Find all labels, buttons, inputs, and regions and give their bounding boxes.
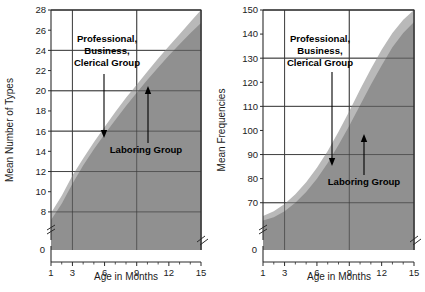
left-chart-svg: 810121416182022242628 13691215 Age in Mo… bbox=[0, 0, 212, 292]
right-professional-line-1: Professional, bbox=[290, 33, 351, 44]
left-y-zero-label: 0 bbox=[40, 244, 45, 255]
r-xtick-5: 15 bbox=[409, 267, 420, 278]
l-ytick-2: 12 bbox=[35, 166, 46, 177]
r-ytick-3: 100 bbox=[242, 125, 258, 136]
r-ytick-8: 150 bbox=[242, 4, 258, 15]
right-chart-svg: 708090100110120130140150 13691215 Age in… bbox=[212, 0, 425, 292]
l-xtick-0: 1 bbox=[48, 267, 53, 278]
l-ytick-1: 10 bbox=[35, 186, 46, 197]
l-ytick-4: 16 bbox=[35, 126, 46, 137]
l-ytick-8: 24 bbox=[35, 45, 46, 56]
left-laboring-label: Laboring Group bbox=[110, 144, 183, 155]
right-y-zero-label: 0 bbox=[252, 244, 257, 255]
l-ytick-0: 8 bbox=[41, 206, 46, 217]
l-xtick-5: 15 bbox=[196, 267, 207, 278]
left-y-ticklabels: 810121416182022242628 bbox=[35, 4, 46, 217]
r-xtick-4: 12 bbox=[376, 267, 387, 278]
left-professional-line-1: Professional, bbox=[77, 33, 138, 44]
l-ytick-10: 28 bbox=[35, 4, 46, 15]
left-y-axis-title: Mean Number of Types bbox=[4, 78, 15, 182]
l-ytick-9: 26 bbox=[35, 25, 46, 36]
chart-panel-left: 810121416182022242628 13691215 Age in Mo… bbox=[0, 0, 212, 292]
right-x-axis-title: Age in Months bbox=[307, 271, 371, 282]
figure-two-panel-charts: 810121416182022242628 13691215 Age in Mo… bbox=[0, 0, 425, 292]
l-ytick-6: 20 bbox=[35, 85, 46, 96]
left-professional-line-3: Clerical Group bbox=[74, 57, 140, 68]
left-professional-line-2: Business, bbox=[84, 45, 130, 56]
r-xtick-0: 1 bbox=[260, 267, 265, 278]
right-professional-line-3: Clerical Group bbox=[287, 57, 353, 68]
r-ytick-0: 70 bbox=[247, 197, 258, 208]
r-ytick-1: 80 bbox=[247, 173, 258, 184]
right-y-ticklabels: 708090100110120130140150 bbox=[242, 4, 258, 208]
r-ytick-4: 110 bbox=[243, 101, 258, 112]
l-xtick-4: 12 bbox=[164, 267, 175, 278]
r-ytick-5: 120 bbox=[242, 77, 258, 88]
r-ytick-2: 90 bbox=[247, 149, 258, 160]
r-xtick-1: 3 bbox=[282, 267, 287, 278]
left-x-axis-title: Age in Months bbox=[94, 271, 158, 282]
l-xtick-1: 3 bbox=[70, 267, 75, 278]
right-laboring-label: Laboring Group bbox=[328, 176, 401, 187]
l-ytick-5: 18 bbox=[35, 105, 46, 116]
l-ytick-3: 14 bbox=[35, 146, 46, 157]
right-y-axis-title: Mean Frequencies bbox=[216, 89, 227, 172]
chart-panel-right: 708090100110120130140150 13691215 Age in… bbox=[212, 0, 424, 292]
l-ytick-7: 22 bbox=[35, 65, 46, 76]
r-ytick-7: 140 bbox=[242, 28, 258, 39]
right-professional-line-2: Business, bbox=[297, 45, 343, 56]
r-ytick-6: 130 bbox=[242, 53, 258, 64]
